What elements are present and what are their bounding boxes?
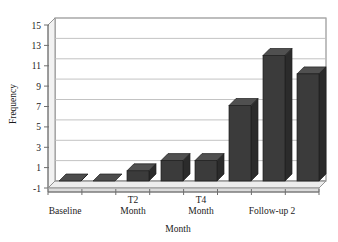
y-tick-label: 3 <box>36 143 41 153</box>
bar-3 <box>127 164 156 181</box>
y-tick-label: 1 <box>36 163 41 173</box>
category-label-t2-bottom: Month <box>120 206 146 216</box>
y-tick-label: -1 <box>33 184 41 194</box>
y-tick-label: 15 <box>32 21 42 31</box>
category-label-t4-top: T4 <box>196 195 207 205</box>
category-label-baseline: Baseline <box>49 206 82 216</box>
x-axis-title: Month <box>165 224 191 234</box>
y-tick-label: 7 <box>36 102 41 112</box>
y-axis-title: Frequency <box>8 84 18 124</box>
bar-6 <box>229 99 258 182</box>
bar-7 <box>263 49 292 182</box>
bar-5 <box>195 154 224 181</box>
y-tick-label: 11 <box>32 61 41 71</box>
y-tick-label: 13 <box>32 41 42 51</box>
y-tick-label: 9 <box>36 82 41 92</box>
chart-figure: 15 13 11 9 7 5 3 1 -1 Frequency <box>0 0 338 242</box>
chart-floor <box>48 181 326 192</box>
bar-4 <box>161 154 190 181</box>
bar-8 <box>297 67 326 181</box>
y-tick-label: 5 <box>36 122 41 132</box>
bar-chart-svg: 15 13 11 9 7 5 3 1 -1 Frequency <box>0 0 338 242</box>
category-label-t4-bottom: Month <box>188 206 214 216</box>
category-label-t2-top: T2 <box>128 195 139 205</box>
category-label-followup: Follow-up 2 <box>249 206 296 216</box>
